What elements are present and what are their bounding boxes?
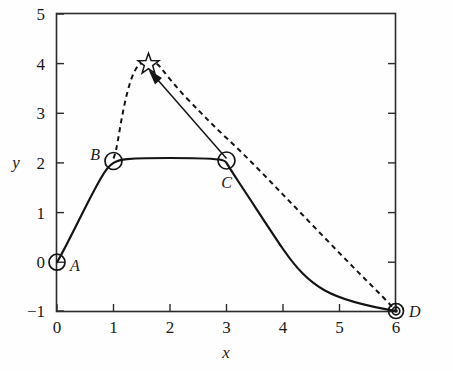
marker-point-b <box>105 153 122 170</box>
annotation-arrow <box>149 70 227 159</box>
marker-point-c <box>218 152 235 169</box>
y-tick-label-2: 2 <box>37 154 46 173</box>
y-tick-label-5: 5 <box>37 5 46 24</box>
point-label-b: B <box>90 146 100 163</box>
plot-canvas: 0 1 2 3 4 5 6 5 4 3 2 1 0 −1 x y <box>0 0 453 371</box>
chart-figure: 0 1 2 3 4 5 6 5 4 3 2 1 0 −1 x y <box>0 0 453 371</box>
x-tick-label-1: 1 <box>109 318 118 337</box>
y-tick-label-0: 0 <box>37 253 46 272</box>
x-tick-label-3: 3 <box>222 318 231 337</box>
point-label-a: A <box>69 257 80 274</box>
point-labels: A B C D <box>69 146 421 320</box>
x-tick-label-0: 0 <box>53 318 62 337</box>
arrow-shaft <box>154 75 227 159</box>
x-axis-ticks <box>57 304 396 311</box>
point-label-c: C <box>221 174 232 191</box>
y-tick-label-neg1: −1 <box>27 302 45 321</box>
x-tick-label-6: 6 <box>392 318 401 337</box>
x-tick-labels: 0 1 2 3 4 5 6 <box>53 318 401 337</box>
x-tick-label-5: 5 <box>335 318 344 337</box>
y-tick-labels: 5 4 3 2 1 0 −1 <box>27 5 46 321</box>
y-tick-label-3: 3 <box>37 104 46 123</box>
y-tick-label-4: 4 <box>37 55 46 74</box>
marker-point-a <box>49 254 65 270</box>
y-axis-right-ticks <box>388 64 395 263</box>
x-axis-title: x <box>221 343 230 362</box>
y-tick-label-1: 1 <box>37 204 46 223</box>
marker-peak-star <box>138 53 159 73</box>
x-tick-label-4: 4 <box>279 318 288 337</box>
dashed-series-path <box>114 61 397 311</box>
x-tick-label-2: 2 <box>166 318 175 337</box>
marker-point-d-center <box>394 309 398 313</box>
y-axis-title: y <box>10 153 20 172</box>
point-label-d: D <box>408 303 421 320</box>
